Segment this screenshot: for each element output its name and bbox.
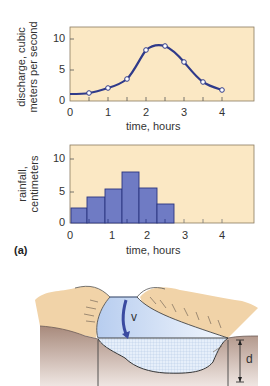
channel-illustration: [0, 0, 270, 386]
depth-label: d: [246, 352, 253, 366]
velocity-label: v: [131, 310, 137, 324]
